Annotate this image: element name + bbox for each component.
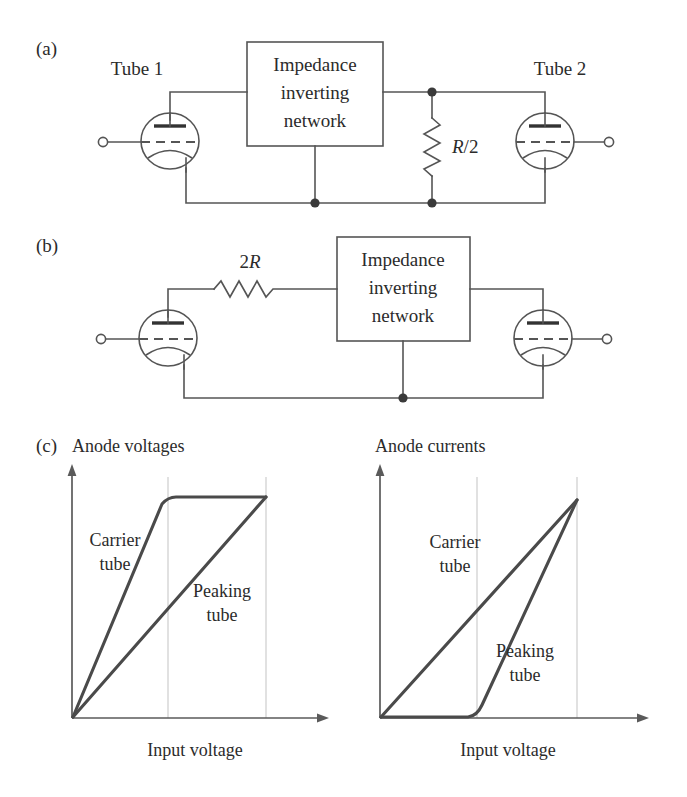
chart-anode-voltages: Anode voltages Carrier tube Peaking tube… [68,436,329,760]
chart1-x-axis-label: Input voltage [147,740,242,760]
tube-4-input-terminal [602,334,611,343]
chart1-carrier-label-line-1: Carrier [90,530,141,550]
resistor-r-over-2 [424,118,440,176]
panel-b: (b) Impedance inverting network 2R [36,235,612,403]
wire-b-tube1-plate [168,289,214,317]
tube-2-input-terminal [604,137,613,146]
impedance-box-b-line-1: Impedance [361,249,444,270]
resistor-2r-label: 2R [239,251,261,272]
tube-1-symbol [98,113,199,172]
impedance-box-b-line-3: network [372,305,435,326]
tube-2-cathode-icon [523,151,567,159]
panel-c-letter: (c) [36,435,57,457]
chart2-carrier-label-line-1: Carrier [430,532,481,552]
panel-a-letter: (a) [36,38,57,60]
tube-1-cathode-icon [148,151,192,159]
tube-1-label: Tube 1 [111,58,164,79]
chart-anode-voltages-title: Anode voltages [72,436,184,456]
chart1-carrier-label-line-2: tube [100,554,131,574]
wire-b-box-to-tube2 [470,289,543,310]
chart2-peaking-label-line-2: tube [510,665,541,685]
chart1-y-axis-arrowhead [68,464,77,476]
figure-root: (a) Tube 1 Tube 2 Impedance inverting ne… [0,0,687,797]
resistor-r-over-2-label-italic: R [451,136,464,157]
resistor-2r [214,281,337,297]
resistor-r-over-2-label: R/2 [451,136,478,157]
resistor-2r-label-rest: 2 [239,251,249,272]
tube-3-cathode-icon [146,348,190,356]
junction-dot-a-top-right [427,87,436,96]
chart2-peaking-label-line-1: Peaking [496,641,554,661]
chart2-x-axis-arrowhead [637,714,649,723]
resistor-2r-label-italic: R [248,251,261,272]
tube-2-symbol [516,113,614,172]
tube-1-input-terminal [98,137,107,146]
chart-anode-currents: Anode currents Carrier tube Peaking tube… [375,436,649,760]
impedance-box-b-line-2: inverting [369,277,438,298]
chart-anode-currents-title: Anode currents [375,436,485,456]
tube-4-symbol [514,310,612,369]
chart1-x-axis-arrowhead [317,714,329,723]
chart1-peaking-label-line-1: Peaking [193,581,251,601]
tube-4-cathode-icon [521,348,565,356]
junction-dot-a-bottom-center [310,198,319,207]
junction-dot-b-bottom-center [398,393,407,402]
tube-2-label: Tube 2 [534,58,587,79]
chart1-peaking-label-line-2: tube [207,605,238,625]
chart2-y-axis-arrowhead [376,464,385,476]
impedance-box-a-line-3: network [284,110,347,131]
resistor-r-over-2-label-rest: /2 [464,136,479,157]
panel-c: (c) Anode voltages Carrier tube Peaking … [36,435,649,760]
panel-b-letter: (b) [36,235,58,257]
impedance-box-a-line-1: Impedance [273,54,356,75]
impedance-box-a-line-2: inverting [281,82,350,103]
wire-a-box-to-tube2 [383,92,545,113]
junction-dot-a-bottom-right [427,198,436,207]
wire-a-bottom-rail [186,168,545,203]
tube-3-symbol [96,310,197,369]
chart2-carrier-label-line-2: tube [440,556,471,576]
panel-a: (a) Tube 1 Tube 2 Impedance inverting ne… [36,38,614,208]
tube-3-input-terminal [96,334,105,343]
wire-b-bottom-rail [184,365,543,398]
chart2-x-axis-label: Input voltage [460,740,555,760]
